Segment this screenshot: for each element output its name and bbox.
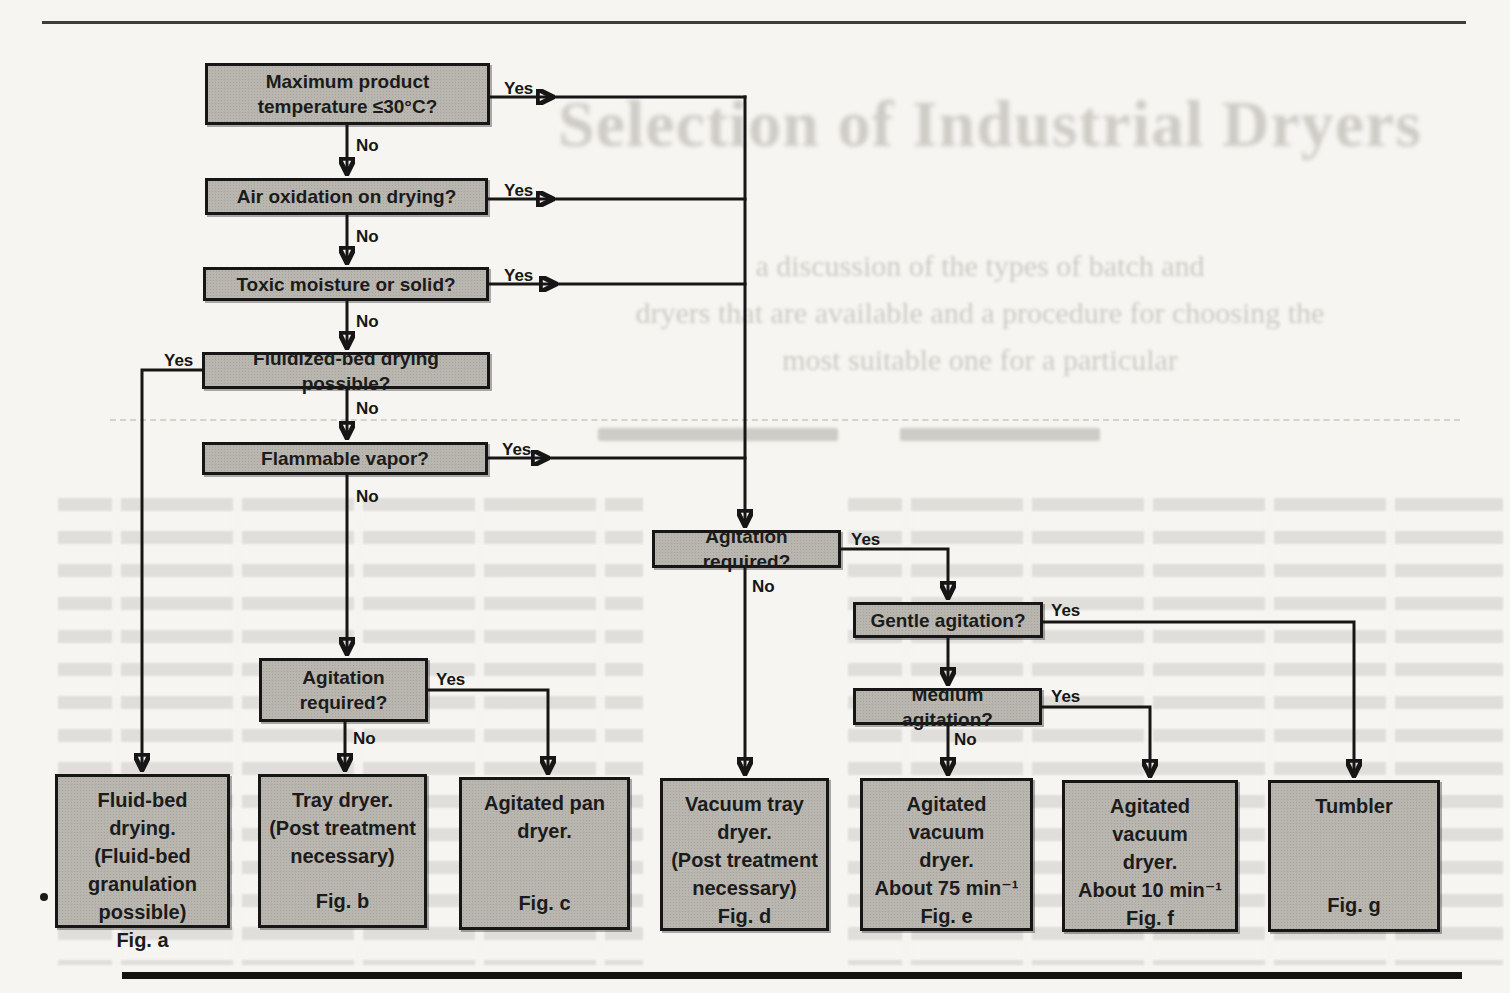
figure-ref: Fig. b xyxy=(267,887,418,915)
figure-ref: Fig. d xyxy=(669,902,820,930)
edge-label-yes-ql: Yes xyxy=(436,670,465,690)
ink-dot-artifact xyxy=(40,893,48,901)
edge-label-no-q4: No xyxy=(356,399,379,419)
flow-node-toxic-moisture: Toxic moisture or solid? xyxy=(203,267,489,301)
flow-node-flammable-vapor: Flammable vapor? xyxy=(202,442,488,475)
outcome-text: Agitated vacuum dryer. About 10 min⁻¹ xyxy=(1071,792,1229,904)
edge-label-no-q2: No xyxy=(356,227,379,247)
figure-ref: Fig. g xyxy=(1277,891,1431,919)
edge-label-no-qm: No xyxy=(954,730,977,750)
flow-node-vacuum-tray-dryer: Vacuum tray dryer. (Post treatment neces… xyxy=(660,778,829,931)
edge-label-no-q1: No xyxy=(356,136,379,156)
flow-node-fluid-bed-drying: Fluid-bed drying. (Fluid-bed granulation… xyxy=(55,774,230,928)
flow-node-tray-dryer: Tray dryer. (Post treatment necessary) F… xyxy=(258,774,427,928)
edge-label-yes-q3: Yes xyxy=(504,266,533,286)
edge-label-yes-q5: Yes xyxy=(502,440,531,460)
flow-node-agitated-pan-dryer: Agitated pan dryer. Fig. c xyxy=(459,777,630,930)
outcome-text: Tray dryer. (Post treatment necessary) xyxy=(267,786,418,870)
flow-node-agitation-required-right: Agitation required? xyxy=(652,530,841,568)
edge-label-no-qr: No xyxy=(752,577,775,597)
flow-node-tumbler: Tumbler Fig. g xyxy=(1268,780,1440,932)
outcome-text: Agitated pan dryer. xyxy=(468,789,621,845)
edge-label-yes-q1: Yes xyxy=(504,79,533,99)
edge-label-yes-q4: Yes xyxy=(164,351,193,371)
figure-ref: Fig. c xyxy=(468,889,621,917)
edge-label-yes-qr: Yes xyxy=(851,530,880,550)
outcome-text: Tumbler xyxy=(1277,792,1431,820)
flow-node-agitation-required-left: Agitation required? xyxy=(259,658,428,722)
flow-node-medium-agitation: Medium agitation? xyxy=(853,688,1042,725)
flow-node-max-product-temperature: Maximum product temperature ≤30°C? xyxy=(205,63,490,125)
edge-label-no-q5: No xyxy=(356,487,379,507)
figure-ref: Fig. a xyxy=(64,926,221,954)
edge-label-yes-q2: Yes xyxy=(504,181,533,201)
scanned-page: Selection of Industrial Dryers a discuss… xyxy=(0,0,1510,993)
figure-ref: Fig. e xyxy=(869,902,1024,930)
edge-label-no-q3: No xyxy=(356,312,379,332)
flow-node-fluidized-bed-possible: Fluidized-bed drying possible? xyxy=(202,352,490,389)
edge-label-yes-qm: Yes xyxy=(1051,687,1080,707)
flow-node-gentle-agitation: Gentle agitation? xyxy=(853,602,1043,638)
figure-ref: Fig. f xyxy=(1071,904,1229,932)
flow-node-agitated-vacuum-dryer-10: Agitated vacuum dryer. About 10 min⁻¹ Fi… xyxy=(1062,780,1238,932)
edge-label-no-ql: No xyxy=(353,729,376,749)
outcome-text: Vacuum tray dryer. (Post treatment neces… xyxy=(669,790,820,902)
outcome-text: Fluid-bed drying. (Fluid-bed granulation… xyxy=(64,786,221,926)
flow-node-air-oxidation: Air oxidation on drying? xyxy=(205,178,488,215)
outcome-text: Agitated vacuum dryer. About 75 min⁻¹ xyxy=(869,790,1024,902)
flow-node-agitated-vacuum-dryer-75: Agitated vacuum dryer. About 75 min⁻¹ Fi… xyxy=(860,778,1033,931)
edge-label-yes-qg: Yes xyxy=(1051,601,1080,621)
